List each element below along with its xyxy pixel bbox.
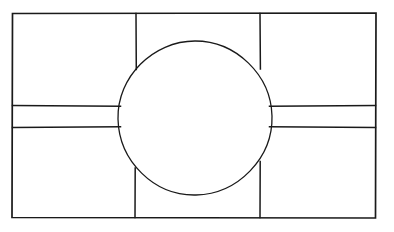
line-drawing [0, 0, 394, 232]
right-upper-horizontal-line [270, 106, 376, 107]
right-lower-horizontal-line [270, 127, 376, 128]
left-upper-horizontal-line [13, 106, 121, 107]
center-circle-shape [118, 41, 272, 195]
left-lower-horizontal-line [13, 127, 121, 128]
diagram-canvas [0, 0, 394, 232]
outer-rectangle-shape [12, 13, 376, 218]
